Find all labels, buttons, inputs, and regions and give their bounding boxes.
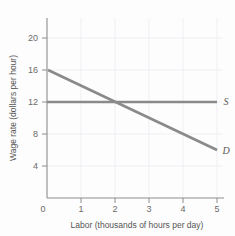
x-tick-label-2: 2 bbox=[112, 204, 117, 214]
origin-tick-label-0: 0 bbox=[40, 204, 45, 214]
y-tick-label-4: 4 bbox=[33, 161, 38, 171]
x-tick-label-4: 4 bbox=[180, 204, 185, 214]
y-tick-label-12: 12 bbox=[28, 97, 38, 107]
y-tick-label-20: 20 bbox=[28, 33, 38, 43]
x-tick-label-3: 3 bbox=[146, 204, 151, 214]
y-tick-label-8: 8 bbox=[33, 129, 38, 139]
chart-figure: 20 16 12 8 4 0 1 2 3 4 5 S D Wage rate (… bbox=[0, 0, 235, 236]
x-axis-tick-labels: 1 2 3 4 5 bbox=[78, 204, 219, 214]
x-axis-tick-marks bbox=[81, 198, 217, 203]
chart-svg: 20 16 12 8 4 0 1 2 3 4 5 S D Wage rate (… bbox=[0, 0, 235, 236]
x-axis-title: Labor (thousands of hours per day) bbox=[71, 220, 204, 230]
y-axis-title: Wage rate (dollars per hour) bbox=[8, 55, 18, 161]
x-tick-label-1: 1 bbox=[78, 204, 83, 214]
curve-label-supply: S bbox=[224, 96, 229, 107]
plot-area-background bbox=[47, 18, 223, 198]
y-tick-label-16: 16 bbox=[28, 65, 38, 75]
y-axis-tick-labels: 20 16 12 8 4 bbox=[28, 33, 38, 171]
x-tick-label-5: 5 bbox=[214, 204, 219, 214]
curve-label-demand: D bbox=[221, 145, 230, 156]
y-axis-tick-marks bbox=[42, 38, 47, 166]
